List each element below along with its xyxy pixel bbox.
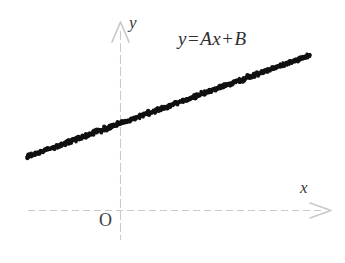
y-axis-label: y [129,14,137,31]
data-point [253,76,256,79]
linear-fit-figure: y x O y=Ax+B [0,0,345,263]
data-point [34,154,37,157]
equation-coefficient: A [200,28,212,49]
data-point [142,116,145,119]
equation-annotation: y=Ax+B [178,29,247,50]
origin-label: O [99,211,112,229]
equation-variable: x [212,28,221,49]
x-axis [28,203,331,218]
y-axis [112,22,129,240]
equation-lhs: y [178,28,187,49]
data-point [308,55,311,58]
data-scatter-band [25,52,311,160]
equation-equals: = [187,28,200,49]
equation-intercept: B [234,28,246,49]
equation-plus: + [221,28,234,49]
x-axis-label: x [300,179,308,196]
plot-canvas [0,0,345,263]
